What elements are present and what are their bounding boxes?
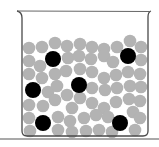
solvent-particle [49,94,62,107]
solute-particle [120,48,136,64]
solvent-particle [86,41,99,54]
solvent-particle [85,53,98,66]
solvent-particle [107,56,120,69]
solvent-particle [23,42,36,55]
solute-particle [25,82,41,98]
solvent-particle [123,93,136,106]
solvent-particle [36,72,49,85]
solvent-particle [34,60,47,73]
solvent-particle [74,92,87,105]
solvent-particle [51,80,64,93]
solvent-particle [49,37,62,50]
solvent-particle [36,41,49,54]
solvent-particle [135,54,148,67]
solvent-particle [129,124,142,137]
solvent-particle [61,40,74,53]
solvent-particle [86,66,99,79]
solute-particle [35,115,51,131]
solvent-particle [134,95,147,108]
solvent-particle [86,82,99,95]
solvent-particle [23,99,36,112]
solvent-particle [37,100,50,113]
solute-particle [71,77,87,93]
beaker-diagram [0,0,159,147]
beaker-rim [17,11,151,12]
solvent-particle [134,112,147,125]
solvent-particle [52,111,65,124]
solvent-particle [134,68,147,81]
solvent-particle [93,124,106,137]
solvent-particle [23,55,36,68]
solvent-particle [111,41,124,54]
solvent-particle [135,41,148,54]
solvent-particle [110,69,123,82]
solvent-particle [122,66,135,79]
solvent-particle [62,52,75,65]
solute-particle [112,115,128,131]
solvent-particle [99,84,112,97]
solvent-particle [86,97,99,110]
solvent-particle [111,82,124,95]
solvent-particle [23,68,36,81]
diagram-canvas [0,0,159,147]
solvent-particle [60,65,73,78]
solvent-particle [98,72,111,85]
solvent-particle [49,68,62,81]
solvent-particle [135,81,148,94]
solvent-particle [78,112,91,125]
solvent-particle [52,124,65,137]
solvent-particle [74,38,87,51]
solvent-particle [66,102,79,115]
solvent-particle [74,63,87,76]
solvent-particle [73,50,86,63]
solvent-particle [124,80,137,93]
solvent-particle [64,115,77,128]
solvent-particle [124,35,137,48]
solvent-particle [110,96,123,109]
solute-particle [45,51,61,67]
solvent-particle [90,109,103,122]
solvent-particle [23,112,36,125]
solvent-particle [61,89,74,102]
